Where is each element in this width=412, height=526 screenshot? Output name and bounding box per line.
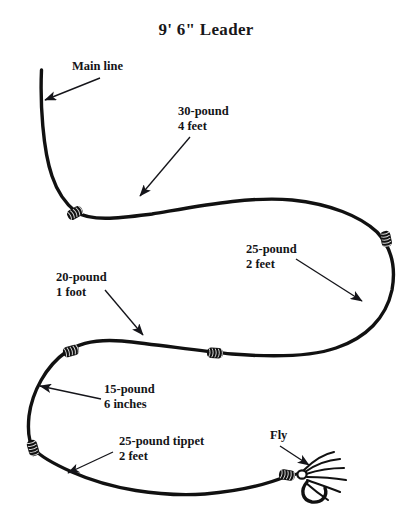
annotation-line2: 2 feet xyxy=(246,257,297,272)
annotation-arrow-segment-25-pound-tippet xyxy=(68,452,113,473)
annotation-arrow-segment-30-pound xyxy=(140,137,190,196)
annotation-label-segment-25-pound-tippet: 25-pound tippet2 feet xyxy=(119,434,204,463)
annotation-line2: 2 feet xyxy=(119,449,204,464)
knot-icon xyxy=(207,347,224,358)
annotation-line1: 15-pound xyxy=(104,382,155,396)
annotation-line1: 20-pound xyxy=(56,270,107,284)
annotation-label-segment-15-pound: 15-pound6 inches xyxy=(104,382,155,411)
annotation-label-segment-30-pound: 30-pound4 feet xyxy=(178,104,229,133)
annotation-label-main-line: Main line xyxy=(72,59,123,74)
annotation-label-segment-20-pound: 20-pound1 foot xyxy=(56,270,107,299)
annotation-line2: 4 feet xyxy=(178,119,229,134)
annotation-line2: 1 foot xyxy=(56,285,107,300)
annotation-line1: 30-pound xyxy=(178,104,229,118)
fly-hackle xyxy=(307,480,340,492)
annotation-label-segment-25-pound-2-feet: 25-pound2 feet xyxy=(246,242,297,271)
annotation-label-fly: Fly xyxy=(270,428,287,443)
fly-hackle xyxy=(306,468,344,474)
annotation-line1: 25-pound xyxy=(246,242,297,256)
annotation-line1: Fly xyxy=(270,428,287,442)
annotation-arrow-main-line xyxy=(45,78,100,100)
annotation-line1: 25-pound tippet xyxy=(119,434,204,448)
annotation-arrow-segment-20-pound xyxy=(105,290,143,335)
leader-diagram-page: 9' 6" Leader Main line30-pound4 feet25-p… xyxy=(0,0,412,526)
fly-head xyxy=(297,470,306,478)
leader-illustration xyxy=(0,0,412,526)
knot-icon xyxy=(379,230,392,248)
annotation-arrow-segment-25-pound-2-feet xyxy=(296,259,362,301)
annotation-arrow-fly xyxy=(280,446,309,465)
fly-group xyxy=(297,452,346,502)
annotation-line2: 6 inches xyxy=(104,397,155,412)
annotation-line1: Main line xyxy=(72,59,123,73)
fly-hackle xyxy=(307,477,346,480)
annotation-arrow-segment-15-pound xyxy=(40,386,101,399)
